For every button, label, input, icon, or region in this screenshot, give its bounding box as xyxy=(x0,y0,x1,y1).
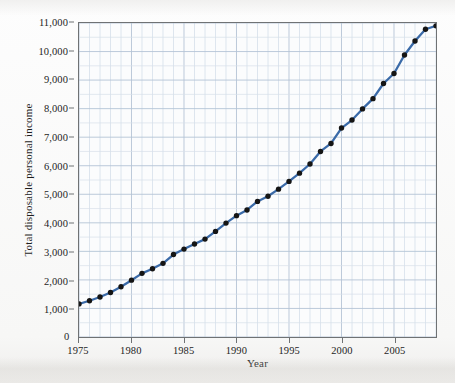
data-series-line xyxy=(79,23,436,337)
x-axis-tick-label: 1985 xyxy=(173,345,194,356)
y-axis-tick-label: 2,000 xyxy=(44,275,68,286)
x-axis-tick-label: 2000 xyxy=(331,345,352,356)
y-axis-tick-label: 9,000 xyxy=(44,74,68,85)
y-axis-tick-mark xyxy=(69,136,74,137)
x-axis-tick-mark xyxy=(289,338,290,343)
plot-area xyxy=(78,22,437,338)
y-axis-labels: 1,0002,0003,0004,0005,0006,0007,0008,000… xyxy=(0,22,74,338)
y-axis-tick-mark xyxy=(69,22,74,23)
x-axis-tick-mark xyxy=(395,338,396,343)
y-axis-zero-label: 0 xyxy=(64,331,69,342)
y-axis-tick-label: 4,000 xyxy=(44,218,68,229)
x-axis-tick-label: 1990 xyxy=(226,345,247,356)
y-axis-tick-mark xyxy=(69,223,74,224)
x-axis-tick-mark xyxy=(184,338,185,343)
x-axis-tick-mark xyxy=(131,338,132,343)
y-axis-tick-mark xyxy=(69,309,74,310)
x-axis-tick-mark xyxy=(78,338,79,343)
y-axis-tick-label: 10,000 xyxy=(39,45,68,56)
y-axis-tick-label: 8,000 xyxy=(44,103,68,114)
y-axis-tick-label: 7,000 xyxy=(44,131,68,142)
x-axis-tick-label: 1980 xyxy=(120,345,141,356)
x-axis-tick-mark xyxy=(342,338,343,343)
y-axis-tick-label: 3,000 xyxy=(44,246,68,257)
x-axis-tick-mark xyxy=(236,338,237,343)
y-axis-tick-label: 11,000 xyxy=(39,17,68,28)
x-axis-tick-label: 1995 xyxy=(278,345,299,356)
x-axis-title: Year xyxy=(78,357,437,369)
y-axis-tick-mark xyxy=(69,194,74,195)
y-axis-tick-mark xyxy=(69,79,74,80)
y-axis-tick-mark xyxy=(69,165,74,166)
paper-texture-top xyxy=(0,0,455,16)
y-axis-tick-label: 5,000 xyxy=(44,189,68,200)
chart-page: Total disposable personal income 1,0002,… xyxy=(0,0,455,383)
x-axis-tick-label: 2005 xyxy=(384,345,405,356)
y-axis-tick-mark xyxy=(69,50,74,51)
y-axis-tick-mark xyxy=(69,251,74,252)
x-axis-tick-label: 1975 xyxy=(67,345,88,356)
y-axis-tick-label: 6,000 xyxy=(44,160,68,171)
y-axis-tick-label: 1,000 xyxy=(44,304,68,315)
y-axis-tick-mark xyxy=(69,280,74,281)
y-axis-tick-mark xyxy=(69,108,74,109)
